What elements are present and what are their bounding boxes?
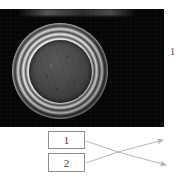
leader-line-from-callout-2 [86,140,163,163]
figure-container: 1 1 2 [0,0,184,179]
photo-top-highlight [18,9,136,16]
dish-inner-disc [29,40,92,103]
callout-box-1: 1 [48,131,85,149]
circular-dish [12,23,108,119]
callout-box-2: 2 [48,153,85,172]
leader-line-from-callout-1 [86,141,166,165]
dish-inner-texture [29,40,92,103]
photo-edge-label: 1 [170,46,175,57]
specimen-photograph [0,9,164,127]
